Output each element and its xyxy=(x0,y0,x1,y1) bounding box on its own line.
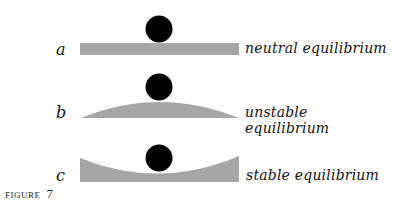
panel-letter-c: c xyxy=(56,166,65,185)
caption-b: unstable equilibrium xyxy=(245,104,393,136)
figure-caption: FIGURE7 xyxy=(5,186,54,202)
ball-b xyxy=(146,74,173,101)
figure-number: 7 xyxy=(47,186,54,201)
panel-letter-a: a xyxy=(56,40,66,59)
ball-c xyxy=(146,145,173,172)
figure-label: FIGURE xyxy=(5,190,41,200)
convex-surface xyxy=(81,102,239,118)
panel-letter-b: b xyxy=(56,103,66,122)
caption-c: stable equilibrium xyxy=(246,167,379,183)
ball-a xyxy=(146,16,173,43)
caption-a: neutral equilibrium xyxy=(245,40,387,56)
flat-surface xyxy=(80,43,239,55)
